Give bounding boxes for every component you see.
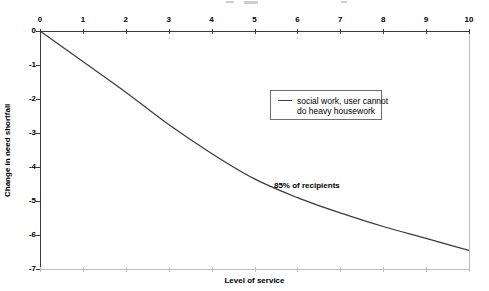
x-axis-title: Level of service: [40, 276, 469, 285]
y-tick-label: -5: [14, 196, 36, 206]
y-tick-label: -2: [14, 94, 36, 104]
x-tick-label: 7: [338, 15, 342, 25]
x-tick-label: 5: [252, 15, 256, 25]
y-tick-label: -3: [14, 128, 36, 138]
x-tick-label: 8: [381, 15, 385, 25]
x-tick-label: 10: [465, 15, 474, 25]
y-tick-mark: [36, 269, 40, 270]
legend-label-line-2: do heavy housework: [297, 106, 388, 116]
x-tick-label: 0: [38, 15, 42, 25]
y-axis-title: Change in need shortfall: [1, 31, 13, 269]
annotation-85-percent-recipients: 85% of recipients: [274, 181, 340, 190]
y-tick-label: -4: [14, 162, 36, 172]
y-tick-label: -1: [14, 60, 36, 70]
x-tick-label: 1: [81, 15, 85, 25]
cropped-text-remnant: [244, 1, 258, 4]
y-tick-label: -6: [14, 230, 36, 240]
x-tick-label: 3: [166, 15, 170, 25]
y-tick-label: -7: [14, 264, 36, 274]
cropped-text-remnant: [226, 1, 234, 3]
x-tick-label: 9: [424, 15, 428, 25]
legend-line-sample-icon: [278, 100, 292, 101]
y-tick-label: 0: [14, 26, 36, 36]
legend-label-line-1: social work, user cannot: [297, 96, 388, 106]
plot-border-right: [469, 31, 470, 270]
x-tick-label: 6: [295, 15, 299, 25]
cropped-text-remnant: [341, 1, 347, 3]
x-tick-label: 2: [124, 15, 128, 25]
bottom-border-tick-mark: [469, 267, 470, 272]
legend: social work, user cannot do heavy housew…: [270, 90, 382, 120]
series-line: [40, 31, 469, 269]
line-chart: 012345678910 0-1-2-3-4-5-6-7 social work…: [0, 0, 489, 291]
x-tick-mark: [469, 29, 470, 34]
legend-label: social work, user cannot do heavy housew…: [297, 96, 388, 116]
x-tick-label: 4: [209, 15, 213, 25]
